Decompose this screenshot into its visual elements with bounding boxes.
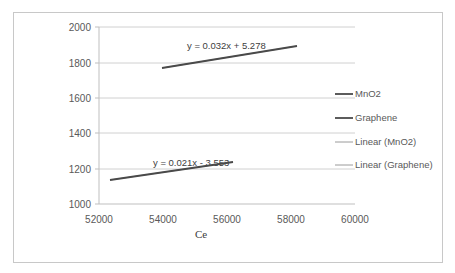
y-axis-ticks [95, 27, 99, 204]
x-axis-title: Ce [195, 228, 207, 240]
x-tick-label: 56000 [213, 214, 241, 225]
legend-label: MnO2 [355, 88, 381, 99]
y-tick-label: 1400 [69, 128, 92, 139]
x-tick-label: 60000 [341, 214, 369, 225]
legend: MnO2 Graphene Linear (MnO2) Linear (Grap… [335, 88, 433, 170]
y-tick-label: 1800 [69, 58, 92, 69]
legend-label: Linear (MnO2) [355, 136, 416, 147]
y-tick-label: 1000 [69, 199, 92, 210]
equation-graphene: y = 0.021x - 3.553 [153, 157, 229, 168]
legend-label: Graphene [355, 112, 397, 123]
y-tick-label: 1200 [69, 164, 92, 175]
legend-label: Linear (Graphene) [355, 159, 433, 170]
x-tick-label: 54000 [149, 214, 177, 225]
equation-mno2: y = 0.032x + 5.278 [187, 40, 266, 51]
x-tick-label: 58000 [277, 214, 305, 225]
y-tick-label: 2000 [69, 22, 92, 33]
chart-svg: 2000 1800 1600 1400 1200 1000 52000 5400… [0, 0, 455, 273]
x-tick-label: 52000 [85, 214, 113, 225]
y-tick-label: 1600 [69, 93, 92, 104]
